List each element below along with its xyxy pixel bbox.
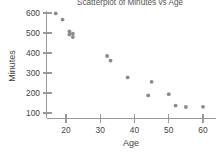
y-axis-label: Minutes [7,50,17,82]
x-axis-ticks: 2030405060 [61,114,208,135]
x-tick-label: 20 [61,125,71,135]
scatterplot-figure: Scatterplot of Minutes vs Age Minutes Ag… [0,0,220,152]
scatter-point [71,35,75,39]
y-tick-label: 200 [26,88,40,98]
scatter-point [68,33,72,37]
scatter-point [105,54,109,58]
y-tick-label: 500 [26,28,40,38]
y-tick-label: 400 [26,48,40,58]
y-tick-label: 100 [26,108,40,118]
scatter-point [71,32,75,36]
scatter-point [109,59,113,63]
y-axis-ticks: 100200300400500600 [26,8,51,118]
scatter-point [184,105,188,109]
scatter-point [174,104,178,108]
y-tick-label: 600 [26,8,40,18]
scatter-point [201,105,205,109]
x-tick-label: 30 [96,125,106,135]
scatter-point [61,18,65,22]
chart-title: Scatterplot of Minutes vs Age [77,0,183,7]
scatter-point [126,76,130,80]
scatter-point [146,94,150,98]
scatterplot-screenshot: Scatterplot of Minutes vs Age Minutes Ag… [0,0,220,152]
x-tick-label: 60 [198,125,208,135]
scatter-point [167,92,171,96]
y-tick-label: 300 [26,68,40,78]
scatter-points-group [54,12,205,109]
scatter-point [54,12,58,16]
x-tick-label: 40 [130,125,140,135]
x-axis-label: Age [123,138,139,148]
scatter-point [150,80,154,84]
x-tick-label: 50 [164,125,174,135]
